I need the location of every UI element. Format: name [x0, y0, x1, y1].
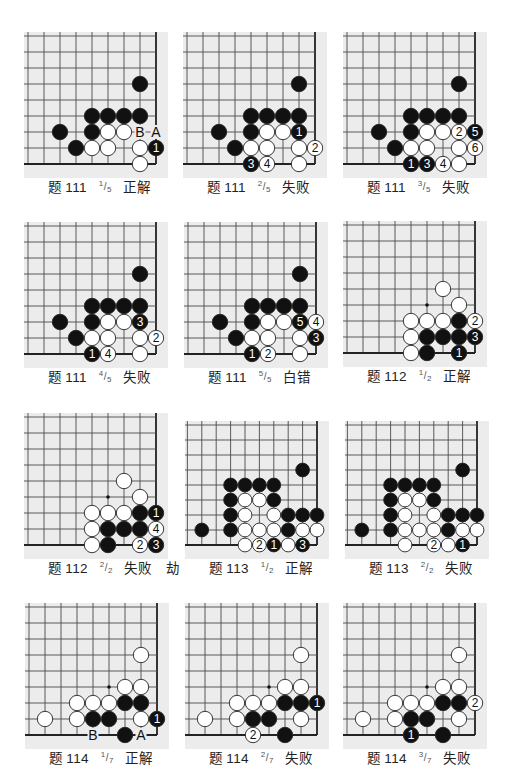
black-stone: [384, 478, 398, 492]
problem-number: 题 114: [49, 747, 89, 767]
diagram-caption: 题 1131/2正解: [209, 558, 313, 576]
black-stone: [387, 140, 402, 155]
white-stone: [132, 156, 147, 171]
white-stone: [84, 140, 99, 155]
black-stone: [259, 108, 274, 123]
diagram-caption: 题 1115/5白错: [208, 367, 311, 385]
white-stone: [451, 679, 466, 694]
svg-text:2: 2: [256, 538, 263, 552]
black-stone: [100, 108, 115, 123]
variation-fraction: 2/5: [258, 181, 271, 192]
black-stone: [275, 108, 290, 123]
problem-number: 题 111: [208, 366, 247, 386]
black-stone: [384, 508, 398, 522]
white-stone: [260, 330, 275, 345]
white-stone: [413, 493, 427, 507]
result-label: 失败: [285, 747, 313, 767]
black-stone-move-3: 3: [148, 537, 163, 552]
black-stone: [451, 695, 466, 710]
diagram-caption: 题 1141/7正解: [49, 748, 153, 766]
white-stone: [100, 124, 115, 139]
black-stone: [419, 108, 434, 123]
black-stone: [244, 298, 259, 313]
black-stone: [132, 298, 147, 313]
white-stone: [470, 523, 484, 537]
black-stone-move-3: 3: [243, 156, 258, 171]
white-stone: [419, 695, 434, 710]
black-stone: [292, 298, 307, 313]
black-stone: [84, 298, 99, 313]
white-stone: [132, 346, 147, 361]
white-stone: [451, 647, 466, 662]
white-stone: [245, 695, 260, 710]
svg-text:4: 4: [264, 157, 271, 171]
white-stone: [238, 538, 252, 552]
white-stone: [69, 695, 84, 710]
black-stone: [435, 695, 450, 710]
go-diagram-3: 256134: [343, 30, 493, 182]
black-stone: [403, 711, 418, 726]
svg-text:2: 2: [312, 141, 319, 155]
black-stone: [441, 508, 455, 522]
white-stone: [403, 695, 418, 710]
white-stone: [435, 679, 450, 694]
variation-fraction: 5/5: [259, 371, 272, 382]
white-stone: [100, 140, 115, 155]
black-stone: [291, 108, 306, 123]
black-stone: [419, 329, 434, 344]
white-stone: [267, 508, 281, 522]
black-stone: [100, 537, 115, 552]
go-diagram-2: 1234: [183, 30, 333, 182]
result-label: 失败: [123, 366, 151, 386]
white-stone: [69, 711, 84, 726]
white-stone-move-2: 2: [148, 330, 163, 345]
black-stone: [243, 108, 258, 123]
white-stone-move-2: 2: [260, 346, 275, 361]
white-stone: [253, 523, 267, 537]
hoshi-point: [107, 685, 111, 689]
black-stone: [261, 711, 276, 726]
result-label: 失败: [445, 557, 473, 577]
white-stone: [398, 538, 412, 552]
black-stone: [224, 493, 238, 507]
point-label-B: B: [135, 124, 144, 140]
black-stone: [435, 329, 450, 344]
white-stone: [293, 711, 308, 726]
svg-text:2: 2: [153, 331, 160, 345]
black-stone: [427, 493, 441, 507]
black-stone: [277, 727, 292, 742]
white-stone: [244, 330, 259, 345]
point-label-B: B: [88, 727, 97, 743]
black-stone-move-3: 3: [467, 329, 482, 344]
black-stone: [281, 523, 295, 537]
go-diagram-9: 21: [345, 411, 495, 563]
black-stone: [403, 124, 418, 139]
white-stone: [267, 523, 281, 537]
white-stone: [413, 523, 427, 537]
white-stone: [100, 330, 115, 345]
black-stone: [355, 523, 369, 537]
black-stone: [310, 508, 324, 522]
point-label-A: A: [136, 727, 146, 743]
white-stone-move-2: 2: [427, 538, 441, 552]
white-stone: [291, 140, 306, 155]
white-stone: [133, 711, 148, 726]
white-stone: [435, 281, 450, 296]
svg-text:2: 2: [137, 538, 144, 552]
black-stone: [100, 521, 115, 536]
white-stone: [398, 508, 412, 522]
problem-number: 题 111: [48, 366, 87, 386]
white-stone: [229, 711, 244, 726]
white-stone: [116, 124, 131, 139]
diagram-caption: 题 1142/7失败: [209, 748, 313, 766]
svg-text:2: 2: [430, 538, 437, 552]
white-stone-move-2: 2: [451, 124, 466, 139]
variation-fraction: 4/5: [99, 371, 112, 382]
white-stone: [387, 711, 402, 726]
white-stone: [238, 523, 252, 537]
white-stone: [229, 695, 244, 710]
diagram-caption: 题 1114/5失败: [48, 367, 151, 385]
black-stone: [384, 523, 398, 537]
go-diagram-12: 21: [343, 601, 493, 753]
black-stone: [291, 76, 306, 91]
